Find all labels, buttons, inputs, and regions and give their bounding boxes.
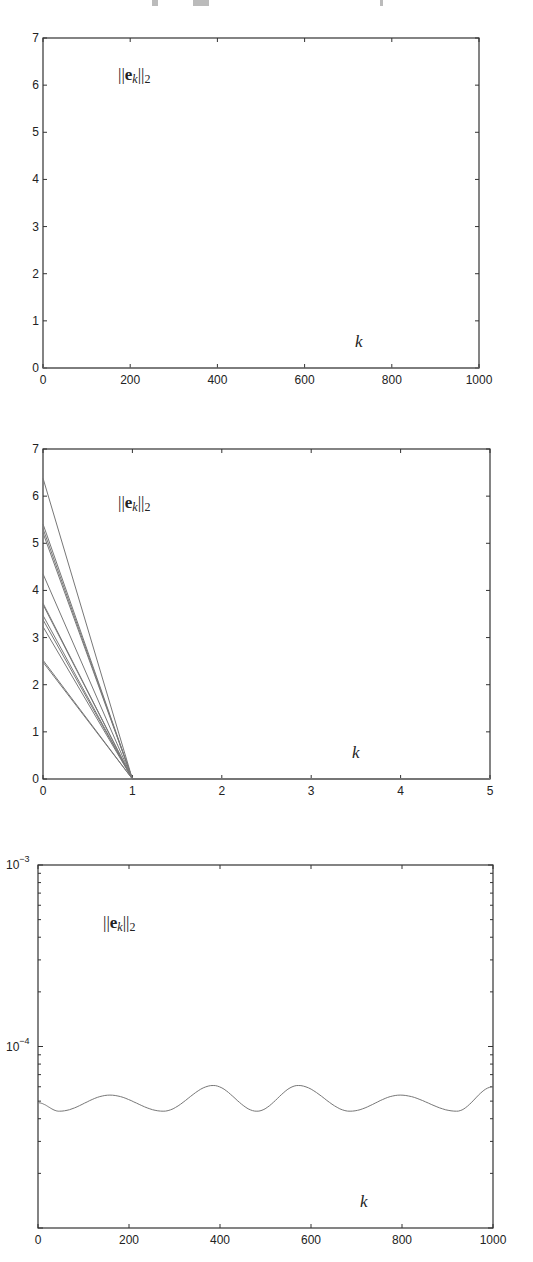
x-tick-label: 800 (392, 1233, 412, 1247)
norm-annotation: ||ek||2 (103, 913, 136, 934)
x-tick-label: 600 (301, 1233, 321, 1247)
data-series-line (38, 1086, 493, 1112)
y-tick-label: 10−4 (6, 1036, 30, 1054)
x-tick-label: 0 (35, 1233, 42, 1247)
x-tick-label: 1000 (480, 1233, 507, 1247)
x-axis-label: k (360, 1192, 368, 1211)
chart-log-1000: 0200400600800100010−310−4||ek||2k (0, 0, 533, 1262)
x-tick-label: 400 (210, 1233, 230, 1247)
y-tick-label: 10−3 (6, 854, 30, 872)
x-tick-label: 200 (119, 1233, 139, 1247)
